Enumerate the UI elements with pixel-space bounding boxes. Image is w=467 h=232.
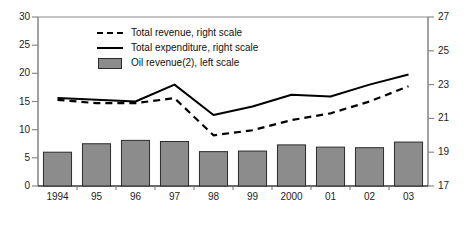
left-axis-ticks (32, 17, 38, 186)
left-tick-30: 30 (19, 12, 30, 22)
x-tick-02: 02 (350, 192, 390, 202)
right-tick-19: 19 (438, 147, 449, 157)
x-tick-98: 98 (194, 192, 234, 202)
bar-95 (82, 144, 110, 186)
line-series-total-expenditure (58, 74, 409, 115)
x-tick-95: 95 (77, 192, 117, 202)
bar-03 (394, 142, 422, 186)
bar-97 (160, 142, 188, 187)
right-tick-21: 21 (438, 113, 449, 123)
bar-01 (316, 147, 344, 186)
legend-label: Total revenue, right scale (131, 27, 242, 38)
right-tick-25: 25 (438, 46, 449, 56)
legend-label: Oil revenue(2), left scale (131, 57, 239, 68)
bar-98 (199, 152, 227, 186)
x-tick-96: 96 (116, 192, 156, 202)
x-tick-03: 03 (389, 192, 429, 202)
chart-legend: Total revenue, right scale Total expendi… (96, 26, 306, 71)
x-tick-1994: 1994 (38, 192, 78, 202)
chart-figure: 051015202530 171921232527 19949596979899… (0, 0, 467, 232)
x-tick-2000: 2000 (272, 192, 312, 202)
x-tick-97: 97 (155, 192, 195, 202)
right-tick-23: 23 (438, 80, 449, 90)
right-tick-27: 27 (438, 12, 449, 22)
legend-label: Total expenditure, right scale (131, 42, 258, 53)
x-tick-99: 99 (233, 192, 273, 202)
bar-swatch-key-icon (96, 57, 124, 68)
bar-series-oil-revenue (43, 140, 422, 186)
bar-99 (238, 151, 266, 186)
right-tick-17: 17 (438, 181, 449, 191)
right-axis-ticks (428, 17, 434, 186)
left-tick-10: 10 (19, 125, 30, 135)
left-tick-5: 5 (24, 153, 30, 163)
left-tick-20: 20 (19, 68, 30, 78)
left-tick-15: 15 (19, 97, 30, 107)
left-tick-25: 25 (19, 40, 30, 50)
x-tick-01: 01 (311, 192, 351, 202)
bar-96 (121, 140, 149, 186)
bar-02 (355, 148, 383, 186)
left-tick-0: 0 (24, 181, 30, 191)
dashed-line-key-icon (96, 27, 124, 38)
legend-item-oil-revenue: Oil revenue(2), left scale (96, 56, 306, 69)
solid-line-key-icon (96, 42, 124, 53)
bar-2000 (277, 145, 305, 186)
bar-1994 (43, 152, 71, 186)
legend-item-total-expenditure: Total expenditure, right scale (96, 41, 306, 54)
legend-item-total-revenue: Total revenue, right scale (96, 26, 306, 39)
